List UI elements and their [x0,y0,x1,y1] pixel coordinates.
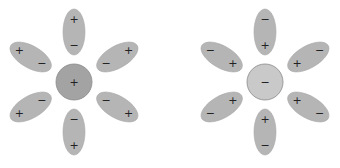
positive-sign: + [15,107,24,120]
dipole-petal: + − [63,9,85,55]
dipole-petal: + − [92,86,143,128]
positive-sign: + [69,13,78,26]
dipole-petal: − + [283,86,334,128]
negative-sign: − [101,94,110,107]
negative-sign: − [206,44,215,57]
negative-sign: − [37,57,46,70]
anion-sign: − [260,76,269,89]
positive-sign: + [15,44,24,57]
dipole-petal: − + [283,36,334,78]
negative-sign: − [69,113,78,126]
positive-sign: + [260,39,269,52]
cation-sign: + [69,76,78,89]
positive-sign: + [69,139,78,152]
negative-sign: − [260,139,269,152]
positive-sign: + [228,94,237,107]
negative-sign: − [260,13,269,26]
anion-cluster: − + − + − + − + − + − + − [196,9,333,155]
dipole-petal: − + [196,86,247,128]
positive-sign: + [260,113,269,126]
positive-sign: + [124,107,133,120]
dipole-petal: − + [254,9,276,55]
negative-sign: − [315,107,324,120]
ion-dipole-diagram: + − + − + − + − + − + − + [0,0,340,168]
positive-sign: + [292,57,301,70]
dipole-petal: + − [63,109,85,155]
dipole-petal: + − [92,36,143,78]
dipole-petal: − + [196,36,247,78]
positive-sign: + [124,44,133,57]
dipole-petal: + − [5,86,56,128]
cation-cluster: + − + − + − + − + − + − + [5,9,142,155]
negative-sign: − [315,44,324,57]
positive-sign: + [228,57,237,70]
dipole-petal: − + [254,109,276,155]
positive-sign: + [292,94,301,107]
dipole-petal: + − [5,36,56,78]
negative-sign: − [206,107,215,120]
negative-sign: − [101,57,110,70]
negative-sign: − [69,39,78,52]
negative-sign: − [37,94,46,107]
